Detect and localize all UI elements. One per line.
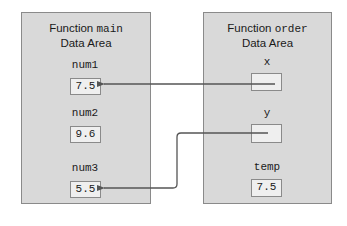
variable-box-x [251, 73, 282, 91]
order-data-area-panel: Function order Data Area x y temp 7.5 [203, 12, 332, 204]
title-prefix: Function [227, 22, 274, 34]
variable-label-temp: temp [237, 161, 297, 173]
order-panel-title: Function order Data Area [204, 21, 331, 50]
variable-label-num1: num1 [55, 59, 115, 71]
function-name: main [96, 23, 122, 35]
main-data-area-panel: Function main Data Area num1 7.5 num2 9.… [21, 12, 151, 204]
variable-box-num3: 5.5 [70, 181, 101, 198]
title-prefix: Function [49, 22, 96, 34]
function-name: order [275, 23, 308, 35]
variable-box-temp: 7.5 [251, 179, 282, 197]
title-suffix: Data Area [242, 37, 293, 49]
variable-label-x: x [237, 56, 297, 68]
variable-box-num1: 7.5 [70, 78, 101, 95]
variable-label-num2: num2 [55, 107, 115, 119]
main-panel-title: Function main Data Area [22, 21, 150, 50]
variable-box-num2: 9.6 [70, 126, 101, 143]
variable-label-num3: num3 [55, 162, 115, 174]
variable-label-y: y [237, 107, 297, 119]
variable-box-y [251, 124, 282, 143]
title-suffix: Data Area [60, 37, 111, 49]
